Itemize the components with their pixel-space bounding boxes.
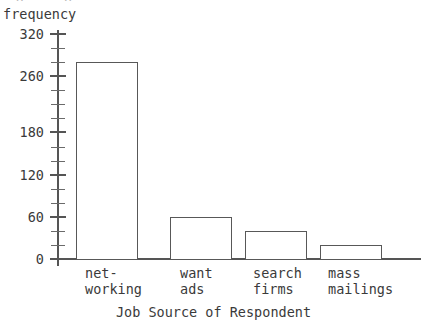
- y-axis-minor-tick: [51, 118, 65, 119]
- x-axis-title: Job Source of Respondent: [0, 304, 427, 320]
- y-axis-major-tick: [50, 216, 66, 218]
- bar: [320, 245, 382, 260]
- y-axis-tick-label: 0: [0, 252, 44, 266]
- x-axis-category-label-line: search: [253, 266, 302, 282]
- y-axis-tick-label: 180: [0, 125, 44, 139]
- y-axis-minor-tick: [51, 90, 65, 91]
- x-axis-category-label: massmailings: [328, 266, 393, 297]
- x-axis-category-label: searchfirms: [253, 266, 302, 297]
- y-axis-minor-tick: [51, 147, 65, 148]
- bar-chart: · g · · g · · frequency 320260180120600 …: [0, 0, 427, 326]
- x-axis-category-label: wantads: [180, 266, 213, 297]
- x-axis-category-label-line: mailings: [328, 282, 393, 298]
- x-axis-category-label-line: working: [85, 282, 142, 298]
- y-axis-minor-tick: [51, 62, 65, 63]
- y-axis-minor-tick: [51, 231, 65, 232]
- y-axis-major-tick: [50, 75, 66, 77]
- y-axis-major-tick: [50, 174, 66, 176]
- x-axis-category-label-line: ads: [180, 282, 213, 298]
- y-axis-minor-tick: [51, 104, 65, 105]
- x-axis-category-label-line: firms: [253, 282, 302, 298]
- y-axis-minor-tick: [51, 245, 65, 246]
- y-axis-tick-label: 260: [0, 69, 44, 83]
- y-axis-major-tick: [50, 131, 66, 133]
- y-axis-tick-label: 60: [0, 210, 44, 224]
- clipped-text-remnant: · g · · g · ·: [0, 0, 427, 1]
- y-axis-tick-label: 120: [0, 168, 44, 182]
- bar: [245, 231, 307, 260]
- y-axis-title: frequency: [3, 6, 76, 22]
- y-axis-major-tick: [50, 258, 66, 260]
- x-axis-category-label-line: want: [180, 266, 213, 282]
- y-axis-minor-tick: [51, 189, 65, 190]
- x-axis-category-label-line: net-: [85, 266, 142, 282]
- y-axis-minor-tick: [51, 48, 65, 49]
- x-axis-category-label-line: mass: [328, 266, 393, 282]
- y-axis-minor-tick: [51, 203, 65, 204]
- y-axis-minor-tick: [51, 161, 65, 162]
- bar: [170, 217, 232, 260]
- x-axis-category-label: net-working: [85, 266, 142, 297]
- y-axis-major-tick: [50, 33, 66, 35]
- bar: [76, 62, 138, 260]
- y-axis-tick-label: 320: [0, 27, 44, 41]
